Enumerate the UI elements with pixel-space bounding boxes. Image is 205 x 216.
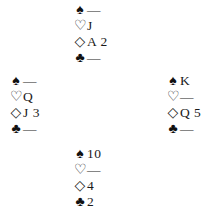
diamond-icon: ◇ <box>74 34 86 50</box>
west-hand: ♠ — ♡ Q ◇ J 3 ♣ — <box>10 73 70 137</box>
spade-icon: ♠ <box>10 73 22 89</box>
east-hearts-row: ♡ — <box>167 89 205 105</box>
south-spades: 10 <box>87 146 102 162</box>
east-clubs: — <box>180 121 194 137</box>
heart-icon: ♡ <box>10 89 22 105</box>
diamond-icon: ◇ <box>10 105 22 121</box>
south-spades-row: ♠ 10 <box>74 146 134 162</box>
east-spades-row: ♠ K <box>167 73 205 89</box>
spade-icon: ♠ <box>167 73 179 89</box>
east-diamonds: Q 5 <box>180 105 201 121</box>
north-hearts-row: ♡ J <box>74 18 134 34</box>
south-clubs: 2 <box>87 194 94 210</box>
club-icon: ♣ <box>167 121 179 137</box>
east-clubs-row: ♣ — <box>167 121 205 137</box>
south-hand: ♠ 10 ♡ — ◇ 4 ♣ 2 <box>74 146 134 210</box>
north-diamonds: A 2 <box>87 34 108 50</box>
club-icon: ♣ <box>10 121 22 137</box>
heart-icon: ♡ <box>74 162 86 178</box>
club-icon: ♣ <box>74 50 86 66</box>
west-spades-row: ♠ — <box>10 73 70 89</box>
south-clubs-row: ♣ 2 <box>74 194 134 210</box>
north-clubs: — <box>87 50 101 66</box>
south-diamonds: 4 <box>87 178 94 194</box>
north-spades-row: ♠ — <box>74 2 134 18</box>
spade-icon: ♠ <box>74 2 86 18</box>
west-clubs: — <box>23 121 37 137</box>
west-clubs-row: ♣ — <box>10 121 70 137</box>
north-hand: ♠ — ♡ J ◇ A 2 ♣ — <box>74 2 134 66</box>
west-diamonds: J 3 <box>23 105 40 121</box>
diamond-icon: ◇ <box>167 105 179 121</box>
west-hearts-row: ♡ Q <box>10 89 70 105</box>
east-hearts: — <box>180 89 194 105</box>
east-spades: K <box>180 73 190 89</box>
east-hand: ♠ K ♡ — ◇ Q 5 ♣ — <box>167 73 205 137</box>
south-hearts: — <box>87 162 101 178</box>
heart-icon: ♡ <box>74 18 86 34</box>
north-diamonds-row: ◇ A 2 <box>74 34 134 50</box>
club-icon: ♣ <box>74 194 86 210</box>
north-spades: — <box>87 2 101 18</box>
spade-icon: ♠ <box>74 146 86 162</box>
south-diamonds-row: ◇ 4 <box>74 178 134 194</box>
west-diamonds-row: ◇ J 3 <box>10 105 70 121</box>
south-hearts-row: ♡ — <box>74 162 134 178</box>
heart-icon: ♡ <box>167 89 179 105</box>
east-diamonds-row: ◇ Q 5 <box>167 105 205 121</box>
north-clubs-row: ♣ — <box>74 50 134 66</box>
west-hearts: Q <box>23 89 33 105</box>
north-hearts: J <box>87 18 93 34</box>
west-spades: — <box>23 73 37 89</box>
diamond-icon: ◇ <box>74 178 86 194</box>
